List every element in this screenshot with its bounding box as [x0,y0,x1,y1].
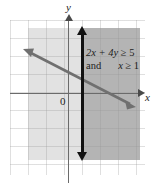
inequality-graph-figure: y x 0 2x + 4y ≥ 5 andx ≥ 1 [0,0,156,183]
vertical-boundary-line [81,34,84,154]
inequality-1-relation: ≥ [121,47,127,58]
x-axis-arrow-icon [138,89,145,97]
light-shaded-region [28,28,83,160]
y-axis-arrow-icon [65,14,73,21]
inequality-line-2: andx ≥ 1 [86,59,139,72]
x-axis [10,93,141,94]
vertical-line-up-arrow-icon [77,26,87,35]
vertical-line-down-arrow-icon [77,152,87,161]
origin-label: 0 [60,96,66,107]
inequality-2-conjunction: and [86,60,101,71]
inequality-2-lhs: x [118,60,123,71]
inequality-2-rhs: 1 [134,60,139,71]
y-axis-label: y [66,2,71,13]
inequality-line-1: 2x + 4y ≥ 5 [86,46,139,59]
inequality-1-lhs: 2x + 4y [86,47,118,58]
y-axis [68,18,69,183]
inequality-1-rhs: 5 [129,47,134,58]
inequality-2-relation: ≥ [125,60,131,71]
inequality-annotation: 2x + 4y ≥ 5 andx ≥ 1 [86,46,139,72]
x-axis-label: x [145,92,150,103]
